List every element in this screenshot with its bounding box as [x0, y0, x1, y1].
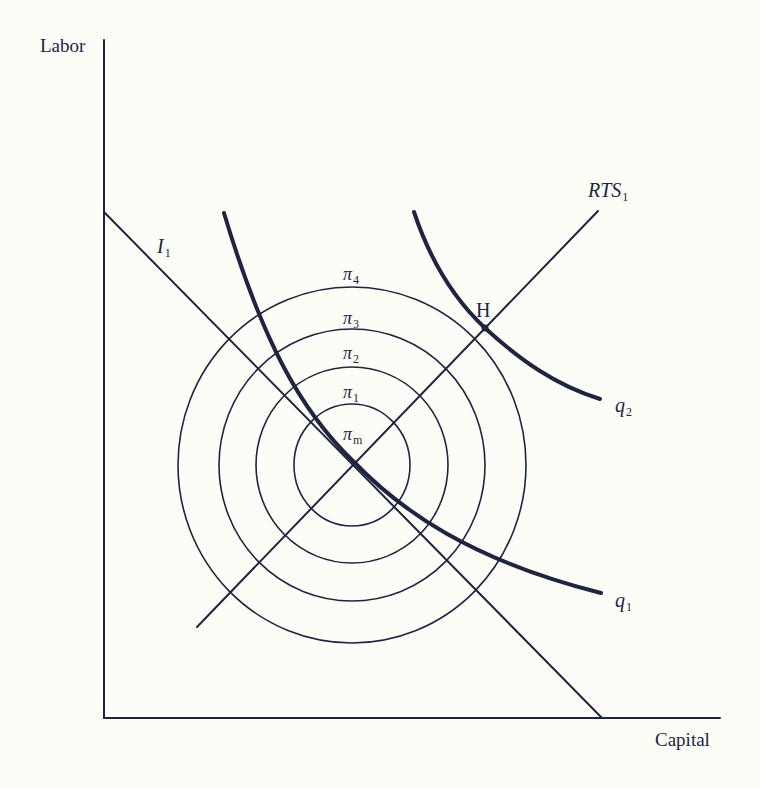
y-axis-label: Labor — [40, 36, 85, 55]
point-h-marker — [482, 325, 489, 332]
isocost-label-sub: 1 — [165, 246, 171, 260]
isoquant-q2-label: q2 — [615, 395, 632, 418]
rts-label: RTS1 — [588, 180, 628, 203]
pi4-name: π — [343, 264, 352, 284]
isoprofit-label-pi3: π3 — [343, 309, 359, 330]
isoquant-q2-name: q — [615, 394, 625, 416]
isoprofit-label-pim: πm — [343, 425, 362, 446]
pim-name: π — [343, 424, 352, 444]
pi2-name: π — [343, 343, 352, 363]
isoprofit-label-pi1: π1 — [343, 383, 359, 404]
isoquant-q1-label: q1 — [615, 590, 632, 613]
pi3-sub: 3 — [353, 317, 359, 331]
pi3-name: π — [343, 308, 352, 328]
rts-label-name: RTS — [588, 179, 621, 201]
diagram-canvas — [0, 0, 760, 788]
pi4-sub: 4 — [353, 273, 359, 287]
isoprofit-label-pi2: π2 — [343, 344, 359, 365]
isoquant-q1-sub: 1 — [626, 600, 632, 614]
pi1-sub: 1 — [353, 391, 359, 405]
rts-ray — [197, 211, 598, 627]
isoprofit-label-pi4: π4 — [343, 265, 359, 286]
rts-label-sub: 1 — [622, 190, 628, 204]
pi1-name: π — [343, 382, 352, 402]
point-h-label: H — [476, 300, 490, 320]
pi2-sub: 2 — [353, 352, 359, 366]
isocost-label-name: I — [157, 235, 164, 257]
x-axis-label: Capital — [655, 730, 710, 749]
pim-sub: m — [353, 433, 362, 447]
isoquant-q1-name: q — [615, 589, 625, 611]
isoquant-q2-sub: 2 — [626, 405, 632, 419]
isocost-label: I1 — [157, 236, 171, 259]
